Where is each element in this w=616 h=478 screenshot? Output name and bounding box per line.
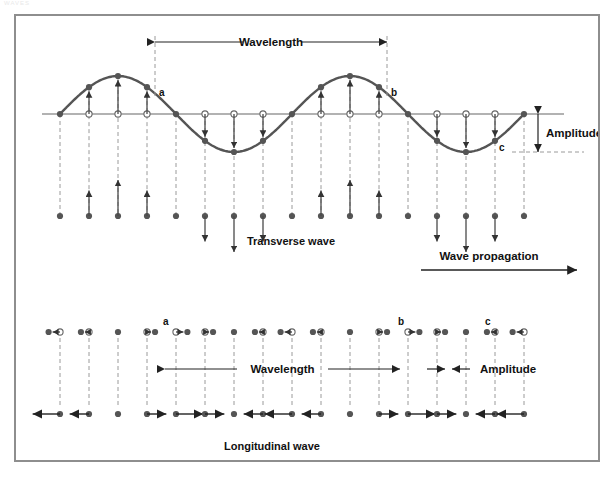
longitudinal-wave-caption: Longitudinal wave <box>224 440 320 452</box>
wave-diagram-svg: Wavelength Amplitude Transverse wave Wav… <box>16 16 598 460</box>
amplitude-label-bottom: Amplitude <box>480 363 536 375</box>
diagram-stage: WAVES Wavelength Amplitude Transverse wa… <box>0 0 616 478</box>
wavelength-label-bottom: Wavelength <box>250 363 314 375</box>
diagram-frame: Wavelength Amplitude Transverse wave Wav… <box>14 14 600 462</box>
point-label-c-top: c <box>499 142 505 153</box>
point-label-a-bottom: a <box>163 316 169 327</box>
point-label-c-bottom: c <box>485 316 491 327</box>
point-label-b-top: b <box>391 87 397 98</box>
amplitude-label-top: Amplitude <box>546 127 598 139</box>
point-label-a-top: a <box>159 87 165 98</box>
top-note-text: WAVES <box>4 0 30 6</box>
point-label-b-bottom: b <box>398 316 404 327</box>
transverse-wave-caption: Transverse wave <box>247 235 335 247</box>
wavelength-label-top: Wavelength <box>239 36 303 48</box>
wave-propagation-label: Wave propagation <box>439 250 538 262</box>
